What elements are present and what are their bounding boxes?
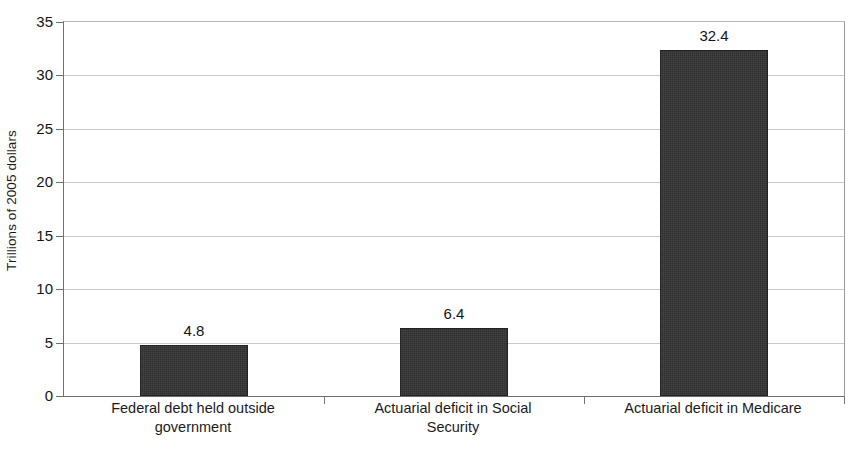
y-axis-tick-label: 35 (9, 13, 53, 30)
x-axis-category-label: Actuarial deficit in SocialSecurity (323, 399, 583, 437)
x-axis-tick (844, 396, 845, 404)
y-axis-tick-label: 20 (9, 173, 53, 190)
bar-value-label: 32.4 (660, 27, 768, 44)
x-axis-category-label: Federal debt held outsidegovernment (63, 399, 323, 437)
y-axis-tick-label: 25 (9, 119, 53, 136)
y-axis-tick (56, 236, 63, 237)
y-axis-tick (56, 129, 63, 130)
y-axis-tick-label: 0 (9, 387, 53, 404)
x-axis-category-label: Actuarial deficit in Medicare (583, 399, 843, 418)
y-axis-title-label: Trillions of 2005 dollars (4, 130, 19, 271)
bar (660, 50, 768, 396)
x-axis-category-label-line: Security (323, 418, 583, 437)
bar-value-label: 4.8 (140, 322, 248, 339)
bar-value-label: 6.4 (400, 305, 508, 322)
y-axis-tick (56, 396, 63, 397)
y-axis-tick-label: 5 (9, 333, 53, 350)
y-axis-tick-label: 30 (9, 66, 53, 83)
x-axis-category-label-line: Actuarial deficit in Social (323, 399, 583, 418)
bar (140, 345, 248, 396)
bar (400, 328, 508, 396)
bar-chart: Trillions of 2005 dollars 4.86.432.4 051… (0, 0, 849, 452)
y-axis-tick (56, 343, 63, 344)
y-axis-tick (56, 75, 63, 76)
y-axis-tick (56, 22, 63, 23)
x-axis-category-label-line: government (63, 418, 323, 437)
y-axis-tick (56, 182, 63, 183)
x-axis-category-label-line: Federal debt held outside (63, 399, 323, 418)
y-axis-tick-label: 15 (9, 226, 53, 243)
plot-area: 4.86.432.4 (63, 21, 845, 397)
y-axis-tick-label: 10 (9, 280, 53, 297)
y-axis-tick (56, 289, 63, 290)
x-axis-category-label-line: Actuarial deficit in Medicare (583, 399, 843, 418)
